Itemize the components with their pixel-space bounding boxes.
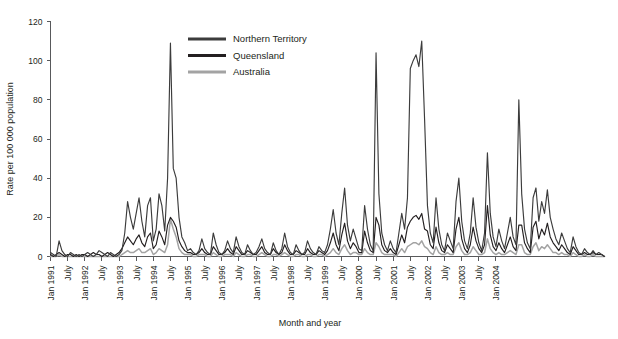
x-axis-ticks: Jan 1991JulyJan 1992JulyJan 1993JulyJan … xyxy=(46,257,501,301)
x-tick-label: Jan 2001 xyxy=(389,265,399,300)
y-axis-title: Rate per 100 000 population xyxy=(5,82,15,196)
y-tick-label: 40 xyxy=(33,173,43,183)
x-tick-label: July xyxy=(372,265,382,281)
x-tick-label: July xyxy=(63,265,73,281)
legend-label-queensland: Queensland xyxy=(233,50,284,61)
x-tick-label: Jan 1994 xyxy=(149,265,159,300)
x-tick-label: Jan 1996 xyxy=(217,265,227,300)
x-tick-label: July xyxy=(132,265,142,281)
x-tick-label: July xyxy=(303,265,313,281)
x-tick-label: July xyxy=(440,265,450,281)
x-tick-label: July xyxy=(200,265,210,281)
x-tick-label: July xyxy=(406,265,416,281)
y-axis-ticks: 020406080100120 xyxy=(28,17,50,262)
x-tick-label: July xyxy=(97,265,107,281)
x-tick-label: July xyxy=(337,265,347,281)
series-lines xyxy=(51,41,605,256)
x-tick-label: Jan 1995 xyxy=(183,265,193,300)
y-tick-label: 100 xyxy=(28,56,42,66)
x-tick-label: Jan 1991 xyxy=(46,265,56,300)
x-tick-label: July xyxy=(166,265,176,281)
x-axis-title: Month and year xyxy=(279,318,342,328)
series-line-northern-territory xyxy=(51,41,605,256)
y-tick-label: 0 xyxy=(38,252,43,262)
x-tick-label: Jan 1993 xyxy=(115,265,125,300)
x-tick-label: Jan 2003 xyxy=(457,265,467,300)
x-tick-label: Jan 2000 xyxy=(354,265,364,300)
legend-label-australia: Australia xyxy=(233,66,271,77)
legend-label-northern-territory: Northern Territory xyxy=(233,33,307,44)
y-tick-label: 60 xyxy=(33,134,43,144)
series-line-queensland xyxy=(51,206,605,257)
x-tick-label: Jan 2002 xyxy=(423,265,433,300)
chart-figure: 020406080100120 Jan 1991JulyJan 1992July… xyxy=(0,0,618,339)
line-chart: 020406080100120 Jan 1991JulyJan 1992July… xyxy=(0,0,618,339)
chart-legend: Northern TerritoryQueenslandAustralia xyxy=(188,33,307,77)
x-tick-label: July xyxy=(474,265,484,281)
x-tick-label: Jan 1992 xyxy=(80,265,90,300)
x-tick-label: Jan 2004 xyxy=(491,265,501,300)
y-tick-label: 20 xyxy=(33,212,43,222)
x-tick-label: Jan 1999 xyxy=(320,265,330,300)
y-tick-label: 120 xyxy=(28,17,42,27)
x-tick-label: Jan 1997 xyxy=(252,265,262,300)
y-tick-label: 80 xyxy=(33,95,43,105)
x-tick-label: Jan 1998 xyxy=(286,265,296,300)
x-tick-label: July xyxy=(269,265,279,281)
x-tick-label: July xyxy=(234,265,244,281)
